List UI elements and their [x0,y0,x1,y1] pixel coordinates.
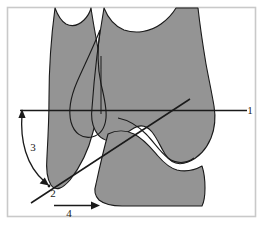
label-4: 4 [66,207,72,219]
figure-container: 1 2 3 4 [0,0,263,225]
label-3: 3 [30,141,36,153]
label-2: 2 [50,187,56,199]
label-1: 1 [247,104,253,116]
anatomical-tracing-figure: 1 2 3 4 [0,0,263,225]
